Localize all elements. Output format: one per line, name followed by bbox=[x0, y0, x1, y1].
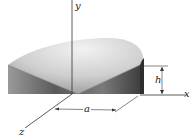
a-label: a bbox=[83, 104, 91, 114]
solid-diagram bbox=[0, 0, 191, 140]
z-axis bbox=[25, 94, 72, 128]
h-label: h bbox=[155, 75, 161, 85]
diagram: y x z h a bbox=[0, 0, 191, 140]
z-axis-label: z bbox=[19, 127, 24, 137]
y-axis-label: y bbox=[75, 1, 81, 11]
a-ext-right bbox=[115, 96, 138, 112]
x-axis-label: x bbox=[184, 89, 190, 99]
